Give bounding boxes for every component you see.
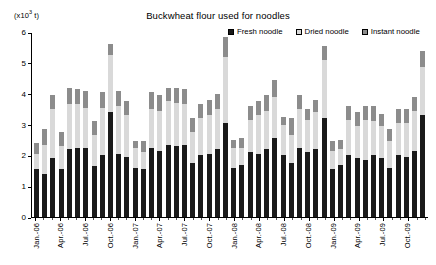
bar-column[interactable]	[371, 106, 376, 217]
bar-column[interactable]	[313, 100, 318, 217]
bar-column[interactable]	[412, 97, 417, 217]
bar-column[interactable]	[207, 100, 212, 217]
bar-column[interactable]	[34, 143, 39, 217]
bar-segment	[198, 104, 203, 118]
x-axis-label-slot	[140, 221, 145, 265]
bar-column[interactable]	[256, 101, 261, 217]
bar-column[interactable]	[396, 109, 401, 217]
bar-column[interactable]	[166, 88, 171, 217]
bar-segment	[363, 120, 368, 160]
bar-column[interactable]	[141, 141, 146, 217]
x-axis-tick-label: Jan.-09	[328, 223, 337, 249]
bar-segment	[338, 165, 343, 217]
bar-column[interactable]	[83, 91, 88, 217]
bar-segment	[420, 51, 425, 68]
bar-segment	[83, 91, 88, 108]
bar-column[interactable]	[59, 132, 64, 217]
bar-segment	[264, 95, 269, 110]
bar-segment	[207, 154, 212, 217]
bar-segment	[363, 160, 368, 217]
bar-segment	[75, 89, 80, 104]
bar-segment	[239, 138, 244, 147]
bar-segment	[231, 168, 236, 217]
x-axis-label-slot	[413, 221, 418, 265]
bar-column[interactable]	[338, 140, 343, 217]
x-axis-tick-mark	[193, 218, 194, 220]
bar-column[interactable]	[363, 106, 368, 217]
bar-column[interactable]	[124, 101, 129, 217]
bar-segment	[141, 152, 146, 169]
x-axis-tick-mark	[325, 218, 326, 220]
bar-column[interactable]	[330, 141, 335, 217]
bar-column[interactable]	[198, 104, 203, 217]
x-axis-tick-label: Apr.-06	[56, 223, 65, 248]
bar-column[interactable]	[50, 95, 55, 217]
bar-segment	[239, 148, 244, 165]
bar-segment	[387, 129, 392, 141]
bar-column[interactable]	[149, 92, 154, 217]
bar-segment	[34, 154, 39, 169]
bar-segment	[174, 103, 179, 146]
bar-column[interactable]	[42, 129, 47, 217]
bar-column[interactable]	[215, 94, 220, 217]
bar-column[interactable]	[231, 140, 236, 217]
bars-layer	[32, 33, 428, 217]
bar-column[interactable]	[264, 95, 269, 217]
x-axis-tick-mark	[101, 218, 102, 220]
bar-segment	[182, 89, 187, 104]
x-axis-tick-label: Apr.-09	[353, 223, 362, 248]
bar-column[interactable]	[67, 88, 72, 217]
bar-column[interactable]	[116, 91, 121, 217]
bar-segment	[34, 169, 39, 217]
bar-column[interactable]	[248, 106, 253, 217]
x-axis-tick-mark	[375, 218, 376, 220]
y-axis-tick-label: 5	[22, 59, 26, 68]
bar-column[interactable]	[289, 118, 294, 217]
bar-column[interactable]	[322, 46, 327, 217]
y-axis-tick-label: 3	[22, 121, 26, 130]
bar-column[interactable]	[387, 129, 392, 217]
bar-segment	[272, 138, 277, 217]
bar-segment	[207, 100, 212, 115]
bar-segment	[256, 101, 261, 115]
bar-column[interactable]	[404, 109, 409, 217]
bar-column[interactable]	[190, 118, 195, 217]
bar-column[interactable]	[297, 95, 302, 217]
x-axis-label-slot	[223, 221, 228, 265]
x-axis-tick-mark	[342, 218, 343, 220]
x-axis-tick-label: Jul.-09	[378, 223, 387, 246]
bar-column[interactable]	[239, 138, 244, 217]
x-axis-tick-mark	[292, 218, 293, 220]
bar-column[interactable]	[133, 141, 138, 217]
bar-segment	[166, 88, 171, 102]
bar-column[interactable]	[346, 106, 351, 217]
bar-segment	[272, 80, 277, 97]
bar-column[interactable]	[281, 117, 286, 217]
x-axis: Jan.-06Apr.-06Jul.-06Oct.-06Jan.-07Apr.-…	[31, 218, 428, 265]
bar-column[interactable]	[157, 95, 162, 217]
x-axis-label-slot: Jan.-09	[330, 221, 335, 265]
bar-column[interactable]	[223, 37, 228, 217]
bar-segment	[322, 46, 327, 60]
bar-column[interactable]	[182, 89, 187, 217]
bar-column[interactable]	[379, 114, 384, 217]
bar-column[interactable]	[108, 44, 113, 217]
y-axis-tick-label: 0	[22, 213, 26, 222]
bar-column[interactable]	[92, 121, 97, 217]
bar-segment	[322, 118, 327, 217]
x-axis-tick-mark	[367, 218, 368, 220]
x-axis-label-slot	[322, 221, 327, 265]
x-axis-label-slot	[248, 221, 253, 265]
bar-segment	[420, 115, 425, 217]
bar-column[interactable]	[75, 89, 80, 217]
bar-column[interactable]	[174, 88, 179, 217]
bar-segment	[198, 155, 203, 217]
bar-column[interactable]	[100, 92, 105, 217]
bar-segment	[34, 143, 39, 154]
bar-segment	[396, 123, 401, 155]
bar-column[interactable]	[272, 80, 277, 217]
bar-column[interactable]	[355, 112, 360, 217]
bar-column[interactable]	[420, 51, 425, 217]
bar-column[interactable]	[305, 109, 310, 217]
bar-segment	[50, 158, 55, 217]
